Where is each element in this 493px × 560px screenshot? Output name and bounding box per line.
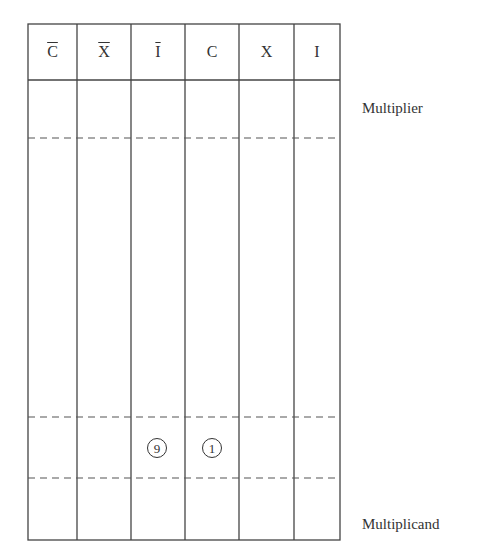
column-header-x-bar: X xyxy=(77,42,131,62)
grid-lines xyxy=(0,0,493,560)
roman-multiplication-board: C X I C X I 9 1 Multiplier Multiplicand xyxy=(0,0,493,560)
column-header-x: X xyxy=(239,42,294,62)
circled-value-1: 1 xyxy=(202,438,222,458)
column-header-c: C xyxy=(185,42,239,62)
circled-value-9: 9 xyxy=(147,438,167,458)
multiplicand-label: Multiplicand xyxy=(362,516,440,533)
multiplier-label: Multiplier xyxy=(362,100,423,117)
column-header-c-bar: C xyxy=(28,42,77,62)
column-header-i-bar: I xyxy=(131,42,185,62)
column-header-i: I xyxy=(294,42,340,62)
